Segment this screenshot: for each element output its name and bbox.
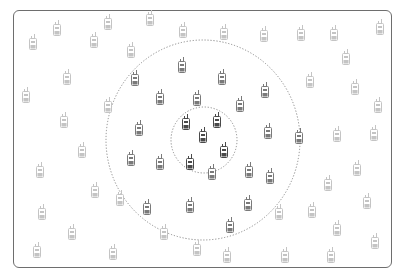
radio-screen <box>268 175 272 177</box>
radio-keypad <box>220 80 225 84</box>
radio-screen <box>283 254 287 256</box>
radio-screen <box>222 31 226 33</box>
radio-screen <box>111 251 115 253</box>
radio-screen <box>92 39 96 41</box>
radio-keypad <box>263 93 268 97</box>
radio-icon <box>128 150 135 166</box>
radio-keypad <box>373 244 378 248</box>
radio-screen <box>35 249 39 251</box>
radio-screen <box>118 197 122 199</box>
radio-keypad <box>225 258 230 262</box>
radio-keypad <box>222 35 227 39</box>
radio-keypad <box>329 258 334 262</box>
radio-icon <box>69 224 76 240</box>
radio-keypad <box>299 36 304 40</box>
radio-icon <box>375 97 382 113</box>
radio-icon <box>105 14 112 30</box>
radio-screen <box>308 79 312 81</box>
radio-screen <box>162 231 166 233</box>
radio-keypad <box>372 136 377 140</box>
radio-keypad <box>65 80 70 84</box>
radio-screen <box>158 161 162 163</box>
radio-screen <box>188 161 192 163</box>
radio-screen <box>70 231 74 233</box>
radio-keypad <box>247 173 252 177</box>
radio-screen <box>225 254 229 256</box>
radio-keypad <box>137 131 142 135</box>
radio-keypad <box>335 231 340 235</box>
radio-keypad <box>118 201 123 205</box>
radio-screen <box>277 211 281 213</box>
radio-icon <box>354 160 361 176</box>
radio-screen <box>181 29 185 31</box>
radio-screen <box>326 182 330 184</box>
radio-icon <box>105 97 112 113</box>
radio-icon <box>39 204 46 220</box>
radio-icon <box>296 128 303 144</box>
radio-icon <box>194 240 201 256</box>
radio-icon <box>265 123 272 139</box>
radio-screen <box>355 167 359 169</box>
radio-screen <box>65 76 69 78</box>
radio-keypad <box>228 228 233 232</box>
radio-icon <box>221 24 228 40</box>
radio-icon <box>34 242 41 258</box>
radio-icon <box>64 69 71 85</box>
radio-keypad <box>129 53 134 57</box>
radio-icon <box>343 49 350 65</box>
radio-icon <box>262 82 269 98</box>
radio-icon <box>372 233 379 249</box>
radio-keypad <box>308 83 313 87</box>
radio-icon <box>352 79 359 95</box>
radio-keypad <box>181 33 186 37</box>
radio-group <box>23 10 384 263</box>
radio-keypad <box>111 255 116 259</box>
radio-keypad <box>188 208 193 212</box>
radio-screen <box>188 204 192 206</box>
radio-screen <box>329 254 333 256</box>
radio-screen <box>31 41 35 43</box>
radio-keypad <box>266 134 271 138</box>
radio-screen <box>332 32 336 34</box>
radio-keypad <box>145 210 150 214</box>
radio-keypad <box>238 107 243 111</box>
radio-keypad <box>162 235 167 239</box>
radio-screen <box>297 135 301 137</box>
radio-keypad <box>70 235 75 239</box>
radio-keypad <box>180 68 185 72</box>
radio-keypad <box>355 171 360 175</box>
radio-keypad <box>246 206 251 210</box>
radio-keypad <box>158 100 163 104</box>
radio-icon <box>92 182 99 198</box>
radio-icon <box>79 142 86 158</box>
radio-screen <box>148 17 152 19</box>
radio-keypad <box>210 175 215 179</box>
radio-keypad <box>55 31 60 35</box>
radio-icon <box>334 220 341 236</box>
radio-icon <box>161 224 168 240</box>
radio-screen <box>238 103 242 105</box>
radio-icon <box>37 162 44 178</box>
radio-icon <box>128 42 135 58</box>
radio-keypad <box>133 81 138 85</box>
radio-icon <box>157 154 164 170</box>
radio-screen <box>215 119 219 121</box>
radio-screen <box>129 157 133 159</box>
radio-keypad <box>106 25 111 29</box>
radio-keypad <box>262 37 267 41</box>
radio-icon <box>136 120 143 136</box>
radio-icon <box>30 34 37 50</box>
radio-icon <box>180 22 187 38</box>
radio-icon <box>377 19 384 35</box>
radio-keypad <box>326 186 331 190</box>
radio-keypad <box>378 30 383 34</box>
radio-icon <box>307 72 314 88</box>
radio-screen <box>55 27 59 29</box>
radio-icon <box>245 195 252 211</box>
radio-icon <box>261 26 268 42</box>
radio-keypad <box>31 45 36 49</box>
radio-icon <box>200 127 207 143</box>
radio-screen <box>222 149 226 151</box>
radio-keypad <box>129 161 134 165</box>
radio-screen <box>373 240 377 242</box>
